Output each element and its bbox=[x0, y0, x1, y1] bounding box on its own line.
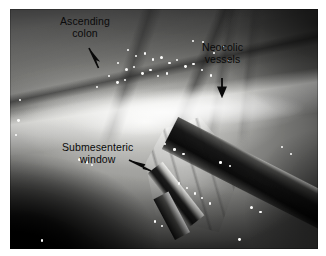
specular-glint bbox=[173, 148, 176, 151]
label-submesenteric-window-line1: Submesenteric bbox=[62, 142, 133, 154]
specular-glint bbox=[161, 225, 163, 227]
label-neocolic-vessels-line2: vessels bbox=[202, 54, 243, 66]
specular-glint bbox=[124, 79, 126, 81]
specular-glint bbox=[186, 187, 188, 189]
specular-glint bbox=[154, 220, 157, 223]
specular-glint bbox=[135, 55, 137, 57]
label-neocolic-vessels: Neocolic vessels bbox=[202, 42, 243, 65]
arrow-neocolic-vessels bbox=[216, 76, 228, 98]
specular-glint bbox=[259, 211, 261, 213]
surgical-photograph bbox=[10, 9, 318, 249]
specular-glint bbox=[141, 72, 144, 75]
specular-glint bbox=[194, 192, 197, 195]
specular-glint bbox=[168, 62, 170, 64]
specular-glint bbox=[15, 134, 17, 136]
specular-glint bbox=[116, 81, 119, 84]
specular-glint bbox=[152, 58, 154, 60]
specular-glint bbox=[144, 52, 147, 55]
arrow-ascending-colon bbox=[86, 47, 108, 71]
label-neocolic-vessels-line1: Neocolic bbox=[202, 42, 243, 54]
right-corner-shadow bbox=[10, 9, 318, 249]
specular-glint bbox=[192, 63, 194, 65]
label-ascending-colon-line2: colon bbox=[60, 28, 110, 40]
specular-glint bbox=[41, 239, 43, 241]
label-ascending-colon-line1: Ascending bbox=[60, 16, 110, 28]
arrow-submesenteric-window bbox=[128, 158, 154, 174]
specular-glint bbox=[219, 161, 222, 164]
specular-glint bbox=[229, 165, 231, 167]
figure-container: Ascending colon Neocolic vessels Submese… bbox=[0, 0, 326, 256]
specular-glint bbox=[238, 238, 241, 241]
specular-glint bbox=[192, 40, 194, 42]
specular-glint bbox=[201, 69, 203, 71]
label-ascending-colon: Ascending colon bbox=[60, 16, 110, 39]
specular-glint bbox=[210, 74, 212, 76]
specular-glint bbox=[125, 68, 128, 71]
label-submesenteric-window: Submesenteric window bbox=[62, 142, 133, 165]
specular-glint bbox=[160, 56, 163, 59]
specular-glint bbox=[178, 182, 181, 185]
label-submesenteric-window-line2: window bbox=[62, 154, 133, 166]
specular-glint bbox=[182, 153, 184, 155]
